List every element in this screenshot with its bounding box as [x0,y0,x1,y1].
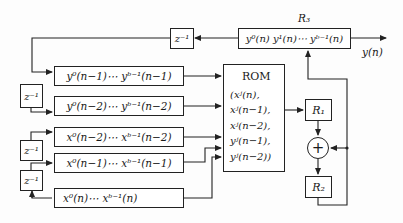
rom-line: yʲ(n−2)) [230,149,271,165]
shift-register-y-n-2: y⁰(n−2)⋯ yᵇ⁻¹(n−2) [54,96,184,116]
delay-block-x1: z⁻¹ [20,140,43,161]
delay-label: z⁻¹ [24,91,39,102]
delay-label: z⁻¹ [24,175,39,186]
adder-icon: + [307,137,329,159]
rom-title: ROM [242,69,271,85]
delay-label: z⁻¹ [24,145,39,156]
register-r3-content: y⁰(n) y¹(n)⋯ yᵇ⁻¹(n) [246,33,343,44]
register-r2-label: R₂ [312,181,325,194]
shift-register-x-n-2: x⁰(n−2)⋯ xᵇ⁻¹(n−2) [54,127,184,147]
register-r3: y⁰(n) y¹(n)⋯ yᵇ⁻¹(n) [238,28,351,49]
da-iir-block-diagram: z⁻¹ R₃ y⁰(n) y¹(n)⋯ yᵇ⁻¹(n) y(n) z⁻¹ z⁻¹… [0,0,403,223]
delay-block-x2: z⁻¹ [20,170,43,191]
rom-line: yʲ(n−1), [230,133,270,149]
register-r1: R₁ [305,99,332,121]
plus-symbol: + [312,141,325,156]
delay-block-y: z⁻¹ [20,84,43,108]
delay-block-feedback: z⁻¹ [170,28,194,49]
rom-line: (xʲ(n), [230,87,260,103]
output-label: y(n) [362,46,383,58]
register-r3-label: R₃ [298,12,310,24]
register-r1-label: R₁ [312,104,325,117]
register-text: y⁰(n−1)⋯ yᵇ⁻¹(n−1) [66,70,171,82]
rom-line: xʲ(n−1), [230,102,270,118]
shift-register-x-n-1: x⁰(n−1)⋯ xᵇ⁻¹(n−1) [54,153,184,173]
register-text: y⁰(n−2)⋯ yᵇ⁻¹(n−2) [66,100,171,112]
shift-register-y-n-1: y⁰(n−1)⋯ yᵇ⁻¹(n−1) [54,66,184,86]
register-r2: R₂ [305,176,332,198]
shift-register-x-n: x⁰(n)⋯ xᵇ⁻¹(n) [54,188,184,208]
rom-line: xʲ(n−2), [230,118,270,134]
register-text: x⁰(n−1)⋯ xᵇ⁻¹(n−1) [66,157,171,169]
delay-label: z⁻¹ [175,33,190,44]
rom-block: ROM (xʲ(n), xʲ(n−1), xʲ(n−2), yʲ(n−1), y… [223,64,285,172]
register-text: x⁰(n)⋯ xᵇ⁻¹(n) [63,192,137,204]
register-text: x⁰(n−2)⋯ xᵇ⁻¹(n−2) [66,131,171,143]
